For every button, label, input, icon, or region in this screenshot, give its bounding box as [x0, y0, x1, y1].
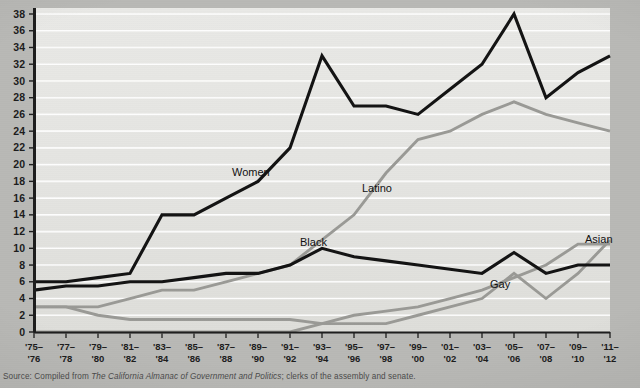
x-axis-tick-label-top: '81–	[121, 341, 139, 352]
y-axis-tick-label: 16	[13, 192, 25, 204]
x-axis-tick-label-bottom: '88	[220, 353, 233, 364]
y-axis-tick-label: 28	[13, 91, 25, 103]
x-axis-tick-label-bottom: '76	[28, 353, 41, 364]
x-axis-tick-label-bottom: '12	[604, 353, 617, 364]
x-axis-tick-label-bottom: '86	[188, 353, 201, 364]
y-axis-tick-label: 34	[13, 41, 25, 53]
y-axis-tick-label: 12	[13, 225, 25, 237]
x-axis-tick-label-bottom: '80	[92, 353, 105, 364]
x-axis-tick-label-top: '95–	[345, 341, 363, 352]
y-axis-tick-label: 26	[13, 108, 25, 120]
x-axis-tick-label-bottom: '98	[380, 353, 393, 364]
x-axis-tick-label-top: '77–	[57, 341, 75, 352]
series-label-black: Black	[300, 236, 327, 248]
x-axis-tick-label-bottom: '92	[284, 353, 297, 364]
source-title: The California Almanac of Government and…	[91, 372, 281, 381]
y-axis-tick-label: 18	[13, 175, 25, 187]
x-axis-tick-label-bottom: '00	[412, 353, 425, 364]
source-suffix: ; clerks of the assembly and senate.	[281, 372, 415, 381]
series-label-asian: Asian	[585, 233, 613, 245]
x-axis-tick-label-bottom: '90	[252, 353, 265, 364]
series-label-women: Women	[232, 166, 270, 178]
source-note: Source: Compiled from The California Alm…	[3, 372, 416, 381]
x-axis-tick-label-top: '79–	[89, 341, 107, 352]
x-axis-tick-label-bottom: '04	[476, 353, 490, 364]
x-axis-tick-label-top: '89–	[249, 341, 267, 352]
y-axis-tick-label: 6	[19, 275, 25, 287]
x-axis-tick-label-top: '03–	[473, 341, 491, 352]
y-axis-tick-label: 24	[13, 125, 25, 137]
y-axis-tick-label: 38	[13, 8, 25, 20]
chart-figure: 02468101214161820222426283032343638 '75–…	[0, 0, 640, 388]
y-axis-tick-labels: 02468101214161820222426283032343638	[13, 8, 25, 338]
x-axis-tick-label-top: '11–	[601, 341, 619, 352]
x-axis-tick-label-top: '91–	[281, 341, 299, 352]
y-axis-tick-label: 32	[13, 58, 25, 70]
x-axis-tick-label-top: '75–	[25, 341, 43, 352]
x-axis-tick-label-bottom: '08	[540, 353, 553, 364]
series-line-black	[34, 248, 610, 290]
y-axis-tick-label: 22	[13, 141, 25, 153]
x-axis-tick-label-top: '01–	[441, 341, 459, 352]
x-axis-tick-labels: '75–'76'77–'78'79–'80'81–'82'83–'84'85–'…	[25, 341, 619, 364]
series-label-latino: Latino	[362, 182, 392, 194]
series-label-gay: Gay	[490, 278, 511, 290]
data-series-group	[34, 14, 610, 332]
x-axis-tick-label-bottom: '78	[60, 353, 73, 364]
x-axis-tick-label-top: '99–	[409, 341, 427, 352]
x-axis-tick-label-top: '05–	[505, 341, 523, 352]
source-prefix: Source: Compiled from	[3, 372, 91, 381]
y-axis-tick-label: 2	[19, 309, 25, 321]
x-axis-tick-label-bottom: '94	[316, 353, 330, 364]
x-axis-tick-label-top: '97–	[377, 341, 395, 352]
y-axis-tick-label: 0	[19, 326, 25, 338]
y-axis-tick-label: 8	[19, 259, 25, 271]
x-axis-tick-label-bottom: '82	[124, 353, 137, 364]
x-axis-tick-label-top: '85–	[185, 341, 203, 352]
x-axis-tick-label-top: '07–	[537, 341, 555, 352]
y-axis-tick-label: 20	[13, 158, 25, 170]
x-axis-tick-label-bottom: '84	[156, 353, 170, 364]
y-axis-tick-label: 30	[13, 75, 25, 87]
x-axis-tick-label-bottom: '96	[348, 353, 361, 364]
y-axis-tick-label: 14	[13, 208, 25, 220]
line-chart: 02468101214161820222426283032343638 '75–…	[0, 0, 640, 388]
x-axis-tick-label-bottom: '02	[444, 353, 457, 364]
x-axis-tick-label-bottom: '10	[572, 353, 585, 364]
y-axis-tick-label: 36	[13, 24, 25, 36]
x-axis-tick-label-top: '87–	[217, 341, 235, 352]
y-axis-tick-label: 4	[19, 292, 25, 304]
y-axis-tick-label: 10	[13, 242, 25, 254]
x-axis-tick-label-top: '83–	[153, 341, 171, 352]
x-axis-tick-label-top: '93–	[313, 341, 331, 352]
x-axis-tick-label-bottom: '06	[508, 353, 521, 364]
x-axis-tick-label-top: '09–	[569, 341, 587, 352]
